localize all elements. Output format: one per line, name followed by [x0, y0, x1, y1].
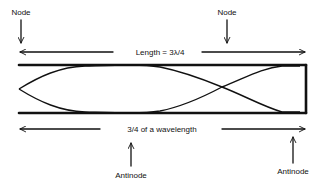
length-top-label: Length = 3λ/4	[136, 48, 185, 57]
length-bottom-label: 3/4 of a wavelength	[127, 125, 196, 134]
wave-envelope-lower	[19, 66, 300, 113]
node-right-label: Node	[217, 8, 237, 17]
node-left-label: Node	[11, 8, 31, 17]
closed-tube-standing-wave-diagram: Node Node Length = 3λ/4 3/4 of a wavelen…	[0, 0, 317, 185]
antinode-left-label: Antinode	[115, 171, 147, 180]
antinode-right-label: Antinode	[277, 167, 309, 176]
